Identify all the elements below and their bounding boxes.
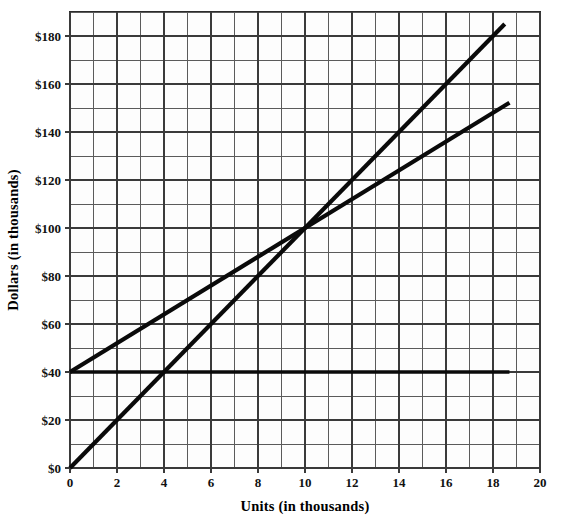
x-tick-label-5: 10 [299, 475, 312, 490]
x-tick-label-9: 18 [487, 475, 501, 490]
break-even-chart-page: $0$20$40$60$80$100$120$140$160$180 02468… [0, 0, 561, 528]
x-tick-label-1: 2 [114, 475, 121, 490]
y-tick-label-2: $40 [42, 365, 62, 380]
x-axis-tick-labels: 02468101214161820 [67, 475, 547, 490]
y-tick-label-3: $60 [42, 317, 62, 332]
y-tick-label-4: $80 [42, 269, 62, 284]
y-tick-label-9: $180 [35, 29, 61, 44]
x-tick-label-2: 4 [161, 475, 168, 490]
y-tick-label-8: $160 [35, 77, 61, 92]
x-axis-title: Units (in thousands) [241, 498, 370, 515]
y-tick-label-7: $140 [35, 125, 61, 140]
x-tick-label-0: 0 [67, 475, 74, 490]
y-tick-label-6: $120 [35, 173, 61, 188]
x-tick-label-4: 8 [255, 475, 262, 490]
y-axis-tick-labels: $0$20$40$60$80$100$120$140$160$180 [35, 29, 61, 476]
y-tick-label-0: $0 [48, 461, 61, 476]
y-tick-label-5: $100 [35, 221, 61, 236]
x-tick-label-6: 12 [346, 475, 359, 490]
y-tick-label-1: $20 [42, 413, 62, 428]
break-even-chart: $0$20$40$60$80$100$120$140$160$180 02468… [0, 0, 561, 528]
y-axis-title: Dollars (in thousands) [5, 169, 22, 310]
x-tick-label-10: 20 [534, 475, 547, 490]
x-tick-label-7: 14 [393, 475, 407, 490]
x-tick-label-8: 16 [440, 475, 454, 490]
x-tick-label-3: 6 [208, 475, 215, 490]
